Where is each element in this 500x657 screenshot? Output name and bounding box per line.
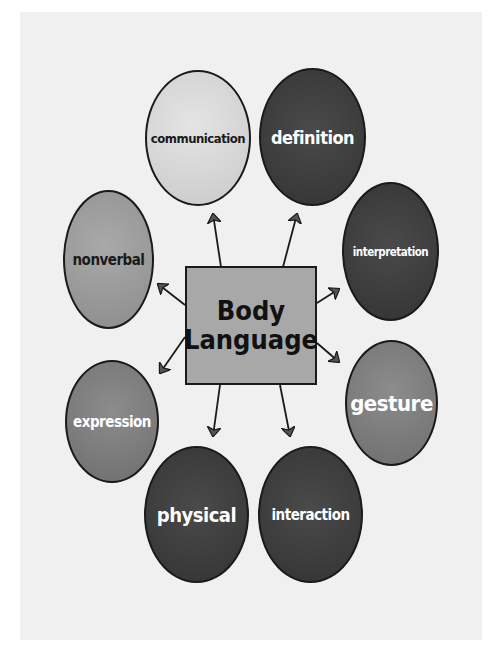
node-gesture: gesture xyxy=(345,340,438,466)
node-label: physical xyxy=(157,503,236,527)
node-label: interaction xyxy=(271,506,349,524)
arrow-to-gesture xyxy=(317,343,339,362)
arrow-to-expression xyxy=(160,337,185,373)
node-label: interpretation xyxy=(353,245,428,259)
node-label: communication xyxy=(151,131,245,146)
center-title-line1: Body xyxy=(217,297,285,325)
arrow-to-interaction xyxy=(280,385,290,436)
arrow-to-definition xyxy=(283,214,297,267)
arrow-to-interpretation xyxy=(317,289,339,303)
node-label: gesture xyxy=(350,391,433,416)
node-communication: communication xyxy=(145,70,251,206)
node-expression: expression xyxy=(65,360,159,483)
arrow-to-nonverbal xyxy=(158,284,185,305)
node-nonverbal: nonverbal xyxy=(63,190,154,329)
center-title-line2: Language xyxy=(184,326,318,354)
arrow-to-physical xyxy=(213,385,220,436)
arrow-to-communication xyxy=(213,214,221,267)
node-physical: physical xyxy=(144,446,249,583)
node-definition: definition xyxy=(259,68,366,206)
node-label: definition xyxy=(271,127,354,148)
node-interaction: interaction xyxy=(258,446,363,583)
node-label: expression xyxy=(73,413,151,431)
center-node-body-language: Body Language xyxy=(185,266,317,385)
node-interpretation: interpretation xyxy=(342,182,439,321)
node-label: nonverbal xyxy=(73,251,145,269)
